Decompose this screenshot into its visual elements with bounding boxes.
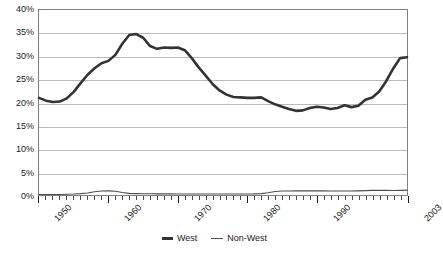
series-line-non-west — [39, 190, 407, 194]
y-axis: 40%35%30%25%20%15%10%5%0% — [0, 9, 34, 196]
x-tick-minor — [387, 196, 388, 200]
x-tick-minor — [303, 196, 304, 200]
x-tick-minor — [213, 196, 214, 200]
chart-legend: WestNon-West — [0, 231, 429, 245]
legend-label: West — [177, 233, 197, 243]
x-tick-label: 1950 — [53, 203, 74, 224]
y-tick-label: 30% — [0, 52, 34, 61]
x-tick-minor — [52, 196, 53, 200]
x-tick-minor — [157, 196, 158, 200]
x-tick-minor — [59, 196, 60, 200]
x-tick-minor — [129, 196, 130, 200]
x-tick-minor — [73, 196, 74, 200]
x-tick-label: 1970 — [192, 203, 213, 224]
x-tick-minor — [233, 196, 234, 200]
x-tick-minor — [80, 196, 81, 200]
x-tick-minor — [282, 196, 283, 200]
x-tick-major — [247, 196, 248, 203]
y-tick-label: 25% — [0, 75, 34, 84]
legend-swatch-icon — [162, 237, 173, 240]
x-tick-major — [108, 196, 109, 203]
x-tick-minor — [143, 196, 144, 200]
y-tick-label: 40% — [0, 5, 34, 14]
x-tick-major — [408, 196, 409, 203]
x-tick-minor — [164, 196, 165, 200]
plot-area — [38, 9, 408, 196]
x-tick-minor — [331, 196, 332, 200]
x-tick-minor — [261, 196, 262, 200]
x-tick-minor — [345, 196, 346, 200]
x-tick-minor — [101, 196, 102, 200]
x-tick-minor — [352, 196, 353, 200]
series-layer — [39, 10, 407, 195]
x-tick-minor — [115, 196, 116, 200]
x-tick-minor — [122, 196, 123, 200]
x-tick-minor — [206, 196, 207, 200]
y-tick-label: 10% — [0, 145, 34, 154]
x-tick-major — [317, 196, 318, 203]
legend-entry-non-west[interactable]: Non-West — [211, 233, 267, 243]
x-tick-minor — [366, 196, 367, 200]
x-tick-minor — [310, 196, 311, 200]
legend-label: Non-West — [227, 233, 267, 243]
x-tick-major — [38, 196, 39, 203]
x-tick-label: 1960 — [123, 203, 144, 224]
x-tick-major — [178, 196, 179, 203]
x-tick-minor — [199, 196, 200, 200]
x-tick-minor — [45, 196, 46, 200]
x-axis-labels: 195019601970198019902003 — [38, 203, 408, 227]
x-tick-minor — [150, 196, 151, 200]
x-tick-minor — [359, 196, 360, 200]
x-tick-minor — [171, 196, 172, 200]
x-tick-minor — [136, 196, 137, 200]
x-tick-minor — [220, 196, 221, 200]
x-tick-minor — [226, 196, 227, 200]
x-tick-minor — [380, 196, 381, 200]
x-tick-minor — [240, 196, 241, 200]
x-tick-minor — [94, 196, 95, 200]
x-tick-label: 1990 — [332, 203, 353, 224]
x-tick-minor — [401, 196, 402, 200]
y-tick-label: 20% — [0, 99, 34, 108]
legend-swatch-icon — [211, 238, 223, 239]
x-tick-minor — [268, 196, 269, 200]
x-tick-minor — [338, 196, 339, 200]
x-tick-minor — [185, 196, 186, 200]
series-line-west — [39, 34, 407, 111]
x-tick-label: 2003 — [423, 203, 443, 224]
x-tick-minor — [373, 196, 374, 200]
y-tick-label: 0% — [0, 192, 34, 201]
y-tick-label: 35% — [0, 28, 34, 37]
x-tick-minor — [289, 196, 290, 200]
x-tick-label: 1980 — [262, 203, 283, 224]
x-tick-minor — [87, 196, 88, 200]
x-tick-minor — [296, 196, 297, 200]
x-tick-minor — [324, 196, 325, 200]
legend-entry-west[interactable]: West — [162, 233, 197, 243]
y-tick-label: 5% — [0, 169, 34, 178]
y-tick-label: 15% — [0, 122, 34, 131]
x-tick-minor — [66, 196, 67, 200]
x-tick-minor — [192, 196, 193, 200]
x-tick-minor — [254, 196, 255, 200]
x-axis-ticks — [38, 196, 408, 203]
x-tick-minor — [394, 196, 395, 200]
x-tick-minor — [275, 196, 276, 200]
